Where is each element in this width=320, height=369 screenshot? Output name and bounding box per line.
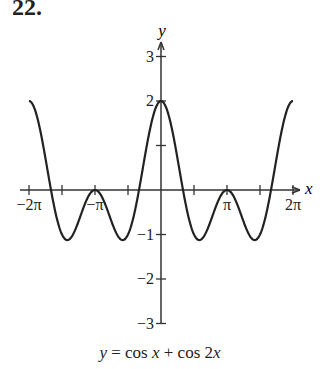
x-tick-label: −2π: [16, 196, 41, 213]
caption-x2: x: [213, 343, 221, 362]
y-axis-label: y: [156, 21, 166, 40]
caption-y: y: [99, 343, 107, 362]
caption-plus: + cos 2: [160, 343, 214, 362]
y-tick-label: −3: [137, 315, 154, 332]
caption-eq: = cos: [107, 343, 152, 362]
y-tick-label: −2: [137, 270, 154, 287]
y-tick-label: −1: [137, 226, 154, 243]
x-tick-label: −π: [86, 196, 103, 213]
y-tick-label: 2: [146, 92, 154, 109]
y-tick-label: 3: [146, 48, 154, 65]
axes: [20, 42, 300, 324]
x-tick-label: 2π: [285, 196, 301, 213]
function-plot: −2π−ππ2π−3−2−123 y x: [0, 0, 320, 369]
chart-caption: y = cos x + cos 2x: [0, 343, 320, 363]
x-tick-label: π: [223, 196, 231, 213]
x-axis-label: x: [304, 179, 313, 198]
caption-x1: x: [152, 343, 160, 362]
